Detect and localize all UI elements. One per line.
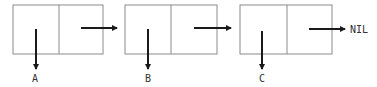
- cons-cell-2: B: [125, 5, 231, 84]
- car-label: C: [259, 73, 265, 84]
- car-label: B: [145, 73, 151, 84]
- car-label: A: [32, 73, 38, 84]
- cons-cell-3: C NIL: [240, 5, 368, 84]
- linked-list-diagram: A B C NIL: [0, 0, 377, 87]
- cell-box: [13, 5, 103, 54]
- cons-cell-1: A: [13, 5, 117, 84]
- nil-label: NIL: [350, 24, 368, 35]
